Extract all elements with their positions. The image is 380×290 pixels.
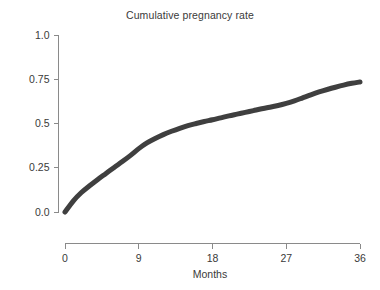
y-axis: 0.00.250.50.751.0: [29, 29, 58, 218]
x-axis-title: Months: [193, 268, 227, 280]
y-axis-tick-label: 0.75: [29, 73, 50, 85]
chart-plot-area: 0.00.250.50.751.0 09182736 Months: [0, 0, 380, 290]
x-axis-tick-label: 18: [207, 252, 219, 264]
x-axis-tick-label: 9: [136, 252, 142, 264]
y-axis-tick-label: 0.25: [29, 161, 50, 173]
x-axis-tick-label: 36: [354, 252, 366, 264]
y-axis-tick-label: 1.0: [35, 29, 50, 41]
data-line-cumulative-pregnancy-rate: [65, 82, 360, 212]
x-axis-tick-label: 27: [280, 252, 292, 264]
data-series-group: [65, 82, 360, 212]
x-axis: 09182736: [62, 244, 366, 264]
y-axis-tick-label: 0.5: [35, 117, 50, 129]
x-axis-tick-label: 0: [62, 252, 68, 264]
y-axis-tick-label: 0.0: [35, 206, 50, 218]
chart-container: Cumulative pregnancy rate 0.00.250.50.75…: [0, 0, 380, 290]
